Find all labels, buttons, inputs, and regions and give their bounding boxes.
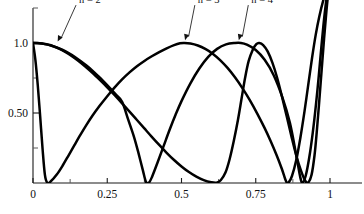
chart-figure: 00.250.50.7510.501.0n = 2n = 3n = 4: [0, 0, 364, 214]
annotation-leader-line: [61, 5, 76, 38]
series-annotation-label: n = 3: [198, 0, 220, 5]
x-tick-label: 0.75: [246, 188, 266, 200]
curve-n4: [33, 0, 330, 183]
annotation-leader-line: [242, 5, 248, 37]
curve-layer: [33, 0, 330, 183]
series-annotation-label: n = 4: [251, 0, 273, 5]
y-tick-label: 0.50: [8, 107, 28, 119]
line-chart-canvas: 00.250.50.7510.501.0n = 2n = 3n = 4: [0, 0, 364, 214]
annotation-arrow-head: [238, 34, 243, 40]
x-tick-label: 0: [30, 188, 36, 200]
x-tick-label: 1: [327, 188, 333, 200]
x-tick-label: 0.5: [174, 188, 189, 200]
x-tick-label: 0.25: [97, 188, 117, 200]
curve-n2: [33, 0, 330, 183]
series-annotation-label: n = 2: [79, 0, 101, 5]
annotation-leader-line: [189, 5, 195, 37]
y-tick-label: 1.0: [14, 37, 29, 49]
annotation-arrow-head: [184, 34, 189, 40]
curve-n3: [33, 0, 330, 183]
